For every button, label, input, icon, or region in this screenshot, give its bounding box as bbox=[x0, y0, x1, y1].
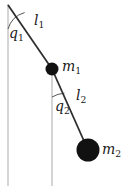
bob-m2 bbox=[77, 139, 100, 162]
label-length-l2: l2 bbox=[76, 88, 86, 104]
label-length-l1: l1 bbox=[34, 13, 44, 29]
label-mass-m2: m2 bbox=[102, 142, 121, 158]
label-angle-q2: q2 bbox=[55, 99, 70, 115]
bob-m1 bbox=[46, 63, 59, 76]
label-angle-q1: q1 bbox=[9, 26, 24, 42]
label-mass-m1: m1 bbox=[62, 59, 81, 75]
double-pendulum-figure: q1 l1 m1 q2 l2 m2 bbox=[0, 0, 127, 186]
